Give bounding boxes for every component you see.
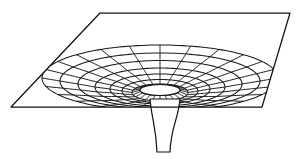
- spacetime-curvature-figure: Spacetime curvature funnel (gravity well…: [0, 0, 297, 159]
- background: [0, 0, 297, 159]
- throat-ring: [140, 85, 180, 96]
- throat-ring-group: [140, 85, 180, 96]
- diagram-canvas: [0, 0, 297, 159]
